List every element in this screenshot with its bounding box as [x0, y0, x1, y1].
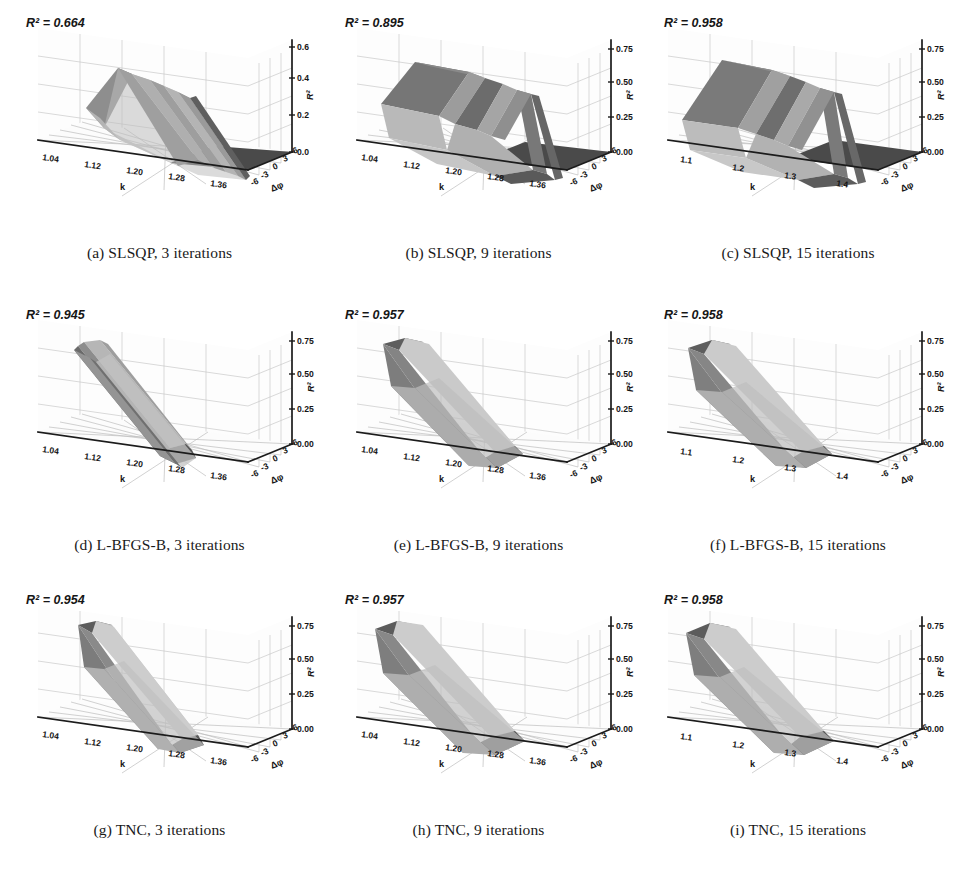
x-axis-label: k — [439, 474, 445, 484]
panel-c: R² = 0.958 — [638, 0, 958, 292]
r2-annotation-e: R² = 0.957 — [345, 308, 404, 322]
y-tick-label: -6 — [568, 753, 579, 765]
panel-caption-a: (a) SLSQP, 3 iterations — [0, 244, 319, 262]
z-tick-label: 0.75 — [297, 621, 314, 631]
z-axis-label: R² — [625, 90, 635, 100]
y-tick-label: -6 — [568, 176, 579, 188]
z-axis-label: R² — [306, 667, 316, 677]
x-axis-label: k — [120, 182, 126, 192]
y-tick-label: -3 — [578, 461, 589, 473]
y-axis-label: Δφ — [269, 756, 285, 770]
y-tick-label: -6 — [249, 176, 260, 188]
z-tick-label: 0.00 — [927, 439, 944, 449]
x-tick-label: 1.2 — [732, 162, 745, 174]
x-tick-label: 1.1 — [680, 154, 693, 166]
z-tick-label: 0.00 — [297, 439, 314, 449]
y-tick-label: -3 — [259, 169, 270, 181]
x-tick-label: 1.04 — [42, 729, 60, 741]
x-tick-label: 1.1 — [680, 731, 693, 743]
surface-plot-h: 0.00 0.25 0.50 0.75 R² 1.04 1.12 1.20 1.… — [319, 577, 638, 809]
z-axis-label: R² — [936, 382, 946, 392]
z-axis-label: R² — [936, 667, 946, 677]
y-axis-label: Δφ — [588, 756, 604, 770]
panel-f: R² = 0.958 — [638, 292, 958, 577]
plot-area-e: R² = 0.957 — [319, 292, 638, 524]
x-tick-label: 1.3 — [784, 747, 797, 759]
y-tick-label: -6 — [249, 468, 260, 480]
y-tick-label: -3 — [889, 169, 900, 181]
z-axis-label: R² — [306, 382, 316, 392]
x-tick-label: 1.28 — [168, 748, 186, 760]
z-axis-label: R² — [625, 382, 635, 392]
x-tick-label: 1.2 — [732, 454, 745, 466]
panel-e: R² = 0.957 — [319, 292, 638, 577]
z-tick-label: 0.25 — [297, 689, 314, 699]
plot-area-a: R² = 0.664 — [0, 0, 319, 232]
z-ticks-f: 0.00 0.25 0.50 0.75 R² — [919, 336, 946, 449]
x-tick-label: 1.3 — [784, 462, 797, 474]
r2-annotation-f: R² = 0.958 — [664, 308, 723, 322]
z-tick-label: 0.25 — [927, 112, 944, 122]
panel-g: R² = 0.954 — [0, 577, 319, 858]
y-tick-label: -6 — [879, 468, 890, 480]
x-tick-label: 1.2 — [732, 739, 745, 751]
panel-h: R² = 0.957 — [319, 577, 638, 858]
z-ticks-e: 0.00 0.25 0.50 0.75 R² — [608, 336, 635, 449]
y-axis-label: Δφ — [588, 179, 604, 193]
panel-caption-d: (d) L-BFGS-B, 3 iterations — [0, 536, 319, 554]
x-tick-label: 1.04 — [361, 152, 379, 164]
x-tick-label: 1.28 — [487, 463, 505, 475]
y-tick-label: -3 — [578, 169, 589, 181]
z-ticks-c: 0.00 0.25 0.50 0.75 R² — [919, 44, 946, 157]
plot-area-i: R² = 0.958 — [638, 577, 958, 809]
plot-area-b: R² = 0.895 — [319, 0, 638, 232]
x-tick-label: 1.12 — [84, 736, 102, 748]
surface-plot-d: 0.00 0.25 0.50 0.75 R² 1.04 1.12 1.20 1.… — [0, 292, 319, 524]
r2-annotation-i: R² = 0.958 — [664, 593, 723, 607]
surface-plot-i: 0.00 0.25 0.50 0.75 R² 1.1 1.2 1.3 1.4 k — [638, 577, 958, 809]
y-tick-label: -6 — [879, 176, 890, 188]
x-tick-label: 1.28 — [168, 171, 186, 183]
y-tick-label: -6 — [249, 753, 260, 765]
y-axis-label: Δφ — [899, 756, 915, 770]
x-tick-label: 1.3 — [784, 170, 797, 182]
surface-plot-c: 0.00 0.25 0.50 0.75 R² 1.1 1.2 1.3 1.4 k — [638, 0, 958, 232]
x-tick-label: 1.36 — [529, 178, 547, 190]
z-tick-label: 0.25 — [616, 112, 633, 122]
z-tick-label: 0.00 — [616, 439, 633, 449]
x-tick-label: 1.20 — [445, 457, 463, 469]
z-tick-label: 0.25 — [616, 404, 633, 414]
x-tick-label: 1.20 — [445, 165, 463, 177]
plot-area-h: R² = 0.957 — [319, 577, 638, 809]
z-tick-label: 0.00 — [616, 147, 633, 157]
z-tick-label: 0.75 — [616, 44, 633, 54]
panel-caption-h: (h) TNC, 9 iterations — [319, 821, 638, 839]
x-axis-label: k — [750, 182, 756, 192]
plot-area-c: R² = 0.958 — [638, 0, 958, 232]
x-tick-label: 1.20 — [126, 457, 144, 469]
z-tick-label: 0.00 — [297, 724, 314, 734]
x-tick-label: 1.20 — [445, 742, 463, 754]
z-tick-label: 0.75 — [927, 336, 944, 346]
surface-plot-b: 0.00 0.25 0.50 0.75 R² 1.04 1.12 1.20 1.… — [319, 0, 638, 232]
x-tick-label: 1.28 — [487, 171, 505, 183]
r2-annotation-c: R² = 0.958 — [664, 16, 723, 30]
x-axis-label: k — [750, 759, 756, 769]
x-tick-label: 1.04 — [42, 152, 60, 164]
x-tick-label: 1.12 — [84, 451, 102, 463]
panel-caption-i: (i) TNC, 15 iterations — [638, 821, 958, 839]
y-tick-label: -3 — [578, 746, 589, 758]
y-axis-label: Δφ — [899, 471, 915, 485]
panel-grid: R² = 0.664 — [0, 0, 958, 876]
x-tick-label: 1.12 — [403, 159, 421, 171]
x-tick-label: 1.28 — [487, 748, 505, 760]
figure-3x3-surface-grid: R² = 0.664 — [0, 0, 958, 876]
z-tick-label: 0.75 — [616, 336, 633, 346]
r2-annotation-h: R² = 0.957 — [345, 593, 404, 607]
z-tick-label: 0.50 — [927, 654, 944, 664]
x-tick-label: 1.36 — [529, 470, 547, 482]
z-tick-label: 0.25 — [927, 404, 944, 414]
r2-annotation-b: R² = 0.895 — [345, 16, 404, 30]
y-axis-label: Δφ — [269, 471, 285, 485]
z-ticks-b: 0.00 0.25 0.50 0.75 R² — [608, 44, 635, 157]
